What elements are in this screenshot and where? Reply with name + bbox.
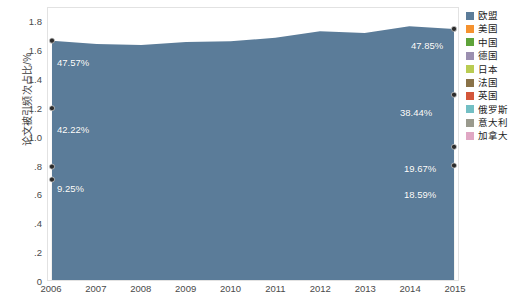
x-axis-tick-labels: 2006200720082009201020112012201320142015 — [47, 283, 459, 303]
data-point-marker — [451, 92, 456, 97]
legend-swatch-icon — [466, 79, 474, 87]
area-band — [52, 26, 454, 280]
legend-swatch-icon — [466, 132, 474, 140]
data-point-marker — [49, 177, 54, 182]
legend-swatch-icon — [466, 38, 474, 46]
data-point-marker — [451, 26, 456, 31]
data-point-marker — [49, 106, 54, 111]
x-axis-tick: 2006 — [40, 283, 61, 294]
x-axis-tick: 2013 — [355, 283, 376, 294]
legend-item-label: 意大利 — [478, 118, 508, 128]
y-axis-tick: .6 — [34, 189, 42, 200]
y-axis-tick: .2 — [34, 247, 42, 258]
y-axis-tick: .8 — [34, 160, 42, 171]
legend-item-4[interactable]: 日本 — [466, 63, 518, 76]
x-axis-tick: 2014 — [400, 283, 421, 294]
legend-swatch-icon — [466, 52, 474, 60]
data-point-marker — [49, 38, 54, 43]
x-axis-tick: 2009 — [175, 283, 196, 294]
legend: 欧盟美国中国德国日本法国英国俄罗斯意大利加拿大 — [466, 9, 518, 143]
stacked-area-chart: 论文被引频次占比/% 1.81.61.41.21.0.8.6.4.20 2006… — [0, 0, 519, 305]
legend-item-label: 法国 — [478, 78, 498, 88]
y-axis-tick: .4 — [34, 218, 42, 229]
legend-item-2[interactable]: 中国 — [466, 36, 518, 49]
y-axis-tick: 1.4 — [29, 74, 42, 85]
legend-item-label: 中国 — [478, 38, 498, 48]
legend-item-8[interactable]: 意大利 — [466, 116, 518, 129]
x-axis-tick: 2007 — [85, 283, 106, 294]
legend-item-label: 英国 — [478, 91, 498, 101]
legend-swatch-icon — [466, 105, 474, 113]
y-axis-tick: 1.2 — [29, 102, 42, 113]
x-axis-tick: 2012 — [310, 283, 331, 294]
legend-item-6[interactable]: 英国 — [466, 89, 518, 102]
legend-item-5[interactable]: 法国 — [466, 76, 518, 89]
legend-swatch-icon — [466, 119, 474, 127]
x-axis-tick: 2008 — [130, 283, 151, 294]
legend-swatch-icon — [466, 25, 474, 33]
x-axis-tick: 2011 — [265, 283, 285, 294]
legend-item-1[interactable]: 美国 — [466, 22, 518, 35]
legend-swatch-icon — [466, 12, 474, 20]
y-axis-tick: 1.6 — [29, 45, 42, 56]
area-series-canvas — [48, 8, 458, 280]
legend-item-0[interactable]: 欧盟 — [466, 9, 518, 22]
legend-swatch-icon — [466, 92, 474, 100]
y-axis-tick: 1.8 — [29, 16, 42, 27]
legend-item-label: 加拿大 — [478, 131, 508, 141]
data-point-marker — [49, 164, 54, 169]
plot-area — [47, 7, 459, 281]
legend-item-9[interactable]: 加拿大 — [466, 130, 518, 143]
legend-item-label: 欧盟 — [478, 11, 498, 21]
x-axis-tick: 2015 — [444, 283, 465, 294]
legend-swatch-icon — [466, 65, 474, 73]
y-axis-tick-labels: 1.81.61.41.21.0.8.6.4.20 — [12, 0, 42, 305]
data-point-marker — [451, 163, 456, 168]
legend-item-label: 俄罗斯 — [478, 105, 508, 115]
legend-item-7[interactable]: 俄罗斯 — [466, 103, 518, 116]
y-axis-tick: 1.0 — [29, 131, 42, 142]
legend-item-3[interactable]: 德国 — [466, 49, 518, 62]
legend-item-label: 美国 — [478, 24, 498, 34]
legend-item-label: 德国 — [478, 51, 498, 61]
data-point-marker — [451, 144, 456, 149]
legend-item-label: 日本 — [478, 65, 498, 75]
x-axis-tick: 2010 — [220, 283, 241, 294]
